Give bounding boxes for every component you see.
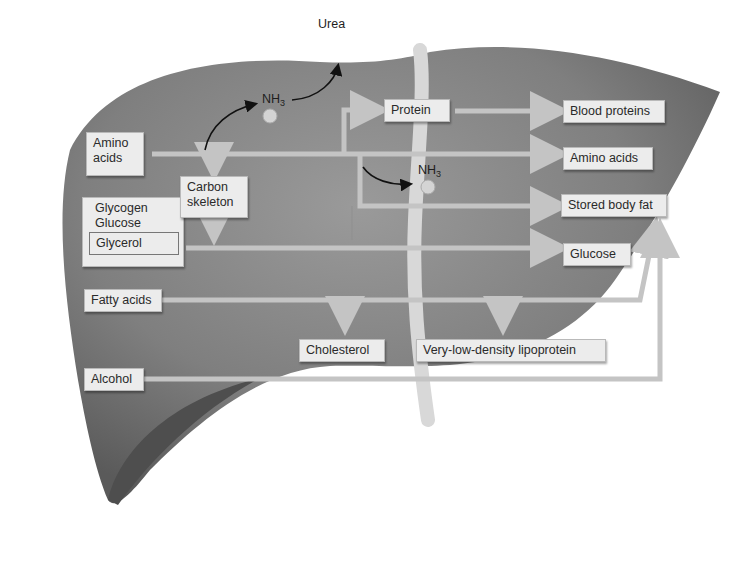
box-alcohol: Alcohol: [84, 368, 144, 391]
urea-label: Urea: [318, 17, 345, 31]
box-glucose: Glucose: [563, 243, 631, 266]
box-cholesterol: Cholesterol: [299, 339, 385, 362]
amino-line1: Amino: [93, 136, 137, 151]
liver-diagram: Urea NH3 NH3 Amino acids Glycogen Glucos…: [0, 0, 747, 579]
nh3-mid-label: NH3: [418, 163, 441, 177]
box-carbohydrates: Glycogen Glucose Glycerol: [82, 197, 184, 267]
box-glycerol: Glycerol: [89, 232, 179, 255]
box-carbon-skeleton: Carbon skeleton: [180, 176, 248, 218]
nh3-top-main: NH: [262, 92, 280, 106]
box-protein: Protein: [384, 99, 450, 122]
nh3-top-sub: 3: [280, 98, 285, 108]
carbon-line1: Carbon: [187, 180, 241, 195]
box-stored-body-fat: Stored body fat: [561, 194, 667, 217]
amino-line2: acids: [93, 151, 137, 166]
glucose-in-label: Glucose: [95, 216, 177, 231]
box-blood-proteins: Blood proteins: [563, 100, 665, 123]
box-vldl: Very-low-density lipoprotein: [416, 339, 606, 362]
nh3-mid-sub: 3: [436, 169, 441, 179]
glycogen-label: Glycogen: [95, 201, 177, 216]
nh3-mid-main: NH: [418, 163, 436, 177]
nh3-top-label: NH3: [262, 92, 285, 106]
carbon-line2: skeleton: [187, 195, 241, 210]
box-fatty-acids: Fatty acids: [84, 289, 162, 312]
box-amino-acids-out: Amino acids: [563, 147, 653, 170]
box-amino-acids: Amino acids: [86, 132, 144, 176]
